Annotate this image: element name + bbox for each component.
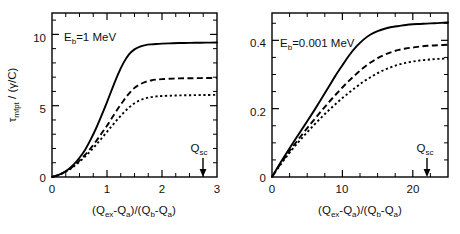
y-title-units: / (γ/C) (6, 68, 18, 103)
right-xtick-label-10: 10 (336, 183, 349, 195)
right-annotation-energy: Eb=0.001 MeV (280, 37, 355, 52)
annot-rest-r: =0.001 MeV (292, 37, 355, 49)
x-axis-title-right: (Qex-Qa)/(Qb-Qa) (318, 204, 402, 219)
left-curve-dotted (52, 95, 217, 177)
right-xtick-label-0: 0 (269, 183, 275, 195)
left-curve-solid (52, 43, 217, 177)
left-ytick-label-0: 0 (40, 172, 46, 184)
x-title-p2-r: -Q (339, 204, 352, 216)
svg-text:τmfpt / (γ/C): τmfpt / (γ/C) (6, 68, 21, 123)
left-xtick-label-0: 0 (49, 183, 55, 195)
left-qsc-label: Qsc (191, 142, 208, 157)
y-axis-title: τmfpt / (γ/C) (6, 68, 21, 123)
qsc-sub-r: sc (425, 148, 433, 157)
right-ytick-label-0: 0 (260, 172, 266, 184)
left-plot-svg: τmfpt / (γ/C) 10 5 0 0 1 2 3 (Qex-Qa)/(Q… (0, 0, 230, 234)
left-ytick-label-10: 10 (33, 32, 46, 44)
left-annotation-energy: Eb=1 MeV (64, 31, 116, 46)
x-title-p1-r: (Q (318, 204, 331, 216)
left-ytick-label-5: 5 (40, 103, 46, 115)
x-title-p1: (Q (92, 204, 105, 216)
x-title-p3: )/(Q (131, 204, 151, 216)
x-title-p4-r: -Q (381, 204, 394, 216)
chart-panel-right: 0.4 0.2 0 0 10 20 (Qex-Qa)/(Qb-Qa) Eb=0.… (230, 0, 460, 234)
left-xtick-label-1: 1 (104, 183, 110, 195)
chart-panel-left: τmfpt / (γ/C) 10 5 0 0 1 2 3 (Qex-Qa)/(Q… (0, 0, 230, 234)
x-title-p5: ) (172, 204, 176, 216)
annot-rest: =1 MeV (76, 31, 116, 43)
qsc-base-r: Q (417, 142, 426, 154)
right-curve-dashed (272, 45, 448, 177)
x-title-p5-r: ) (398, 204, 402, 216)
x-title-sub-ex: ex (105, 210, 113, 219)
right-qsc-arrow (424, 158, 431, 177)
right-plot-svg: 0.4 0.2 0 0 10 20 (Qex-Qa)/(Qb-Qa) Eb=0.… (230, 0, 460, 234)
x-title-p3-r: )/(Q (357, 204, 377, 216)
right-qsc-label: Qsc (417, 142, 434, 157)
x-axis-title: (Qex-Qa)/(Qb-Qa) (92, 204, 176, 219)
y-title-sub-mfpt: mfpt (12, 101, 21, 117)
x-title-p2: -Q (113, 204, 126, 216)
figure-root: τmfpt / (γ/C) 10 5 0 0 1 2 3 (Qex-Qa)/(Q… (0, 0, 460, 234)
right-ytick-label-02: 0.2 (250, 106, 266, 118)
left-xtick-label-3: 3 (214, 183, 220, 195)
right-xtick-label-20: 20 (407, 183, 420, 195)
left-curve-dashed (52, 78, 217, 177)
right-curve-dotted (272, 58, 448, 177)
qsc-sub: sc (199, 148, 207, 157)
x-title-sub-ex-r: ex (331, 210, 339, 219)
left-qsc-arrow (200, 158, 207, 177)
left-xtick-label-2: 2 (159, 183, 165, 195)
right-ytick-label-04: 0.4 (250, 37, 267, 49)
qsc-base: Q (191, 142, 200, 154)
x-title-p4: -Q (155, 204, 168, 216)
